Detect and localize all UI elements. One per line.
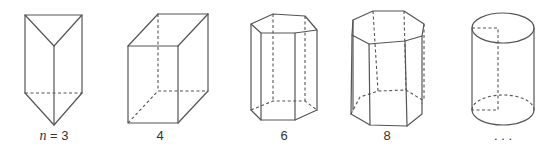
label-4: 4 bbox=[156, 128, 163, 143]
hexagonal-prism bbox=[251, 14, 317, 120]
triangular-prism bbox=[25, 15, 82, 125]
label-6: 6 bbox=[280, 128, 287, 143]
square-prism bbox=[128, 14, 208, 123]
label-n-3: n = 3 bbox=[39, 128, 68, 144]
cylinder bbox=[472, 13, 534, 125]
label-8: 8 bbox=[383, 128, 390, 143]
prism-sequence-diagram bbox=[0, 0, 555, 154]
octagonal-prism bbox=[351, 11, 424, 126]
label-ellipsis: . . . bbox=[494, 128, 512, 143]
